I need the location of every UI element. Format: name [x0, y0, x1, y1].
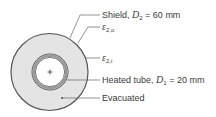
eps-outer-sub: 2,o	[106, 27, 114, 33]
tube-value: = 20 mm	[167, 75, 205, 85]
tube-label: Heated tube, D1 = 20 mm	[102, 75, 204, 88]
evacuated-dot	[61, 97, 63, 99]
eps-inner-sub: 2,i	[106, 58, 112, 64]
shield-value: = 60 mm	[143, 10, 181, 20]
tube-label-text: Heated tube,	[102, 75, 156, 85]
leader-shield	[70, 15, 100, 38]
shield-tube-diagram: Shield, D2 = 60 mm ε2,o ε2,i Heated tube…	[0, 0, 216, 117]
eps-outer-label: ε2,o	[102, 22, 114, 35]
leader-eps-outer	[78, 27, 100, 43]
evacuated-label: Evacuated	[102, 93, 145, 103]
shield-label-text: Shield,	[102, 10, 132, 20]
evacuated-label-text: Evacuated	[102, 93, 145, 103]
eps-inner-label: ε2,i	[102, 53, 112, 66]
